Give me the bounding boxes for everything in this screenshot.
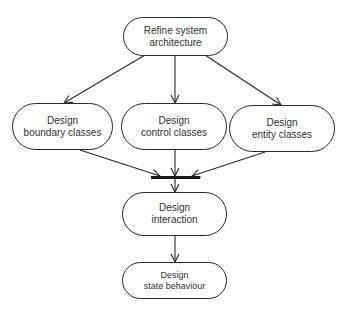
node-design-boundary-classes: Design boundary classes <box>12 103 113 150</box>
node-label-line2: entity classes <box>252 129 312 141</box>
node-label-line2: state behaviour <box>144 281 206 292</box>
node-refine-system-architecture: Refine system architecture <box>123 17 228 56</box>
join-bar <box>151 176 200 179</box>
node-label-line2: interaction <box>151 214 197 226</box>
node-design-entity-classes: Design entity classes <box>229 105 335 152</box>
node-design-state-behaviour: Design state behaviour <box>122 262 227 299</box>
node-label-line1: Design <box>160 270 188 281</box>
edge-boundary-join <box>80 150 160 176</box>
node-label-line2: architecture <box>149 37 201 49</box>
node-label-line1: Refine system <box>144 25 207 37</box>
node-label-line1: Design <box>266 117 297 129</box>
node-design-control-classes: Design control classes <box>121 103 227 150</box>
node-label-line2: boundary classes <box>24 127 102 139</box>
node-label-line1: Design <box>158 115 189 127</box>
edge-refine-boundary <box>64 55 145 103</box>
node-label-line1: Design <box>159 202 190 214</box>
edge-refine-entity <box>205 55 281 105</box>
node-label-line1: Design <box>47 115 78 127</box>
edge-entity-join <box>192 152 265 176</box>
node-design-interaction: Design interaction <box>122 192 227 236</box>
node-label-line2: control classes <box>141 127 207 139</box>
